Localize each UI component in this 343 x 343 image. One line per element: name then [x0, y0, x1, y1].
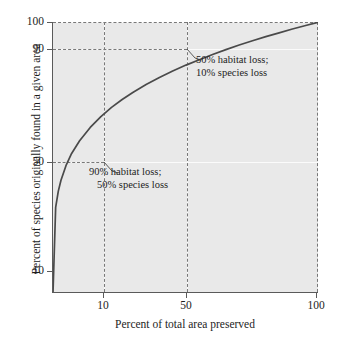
xtick-mark-50	[186, 293, 187, 298]
xtick-mark-10	[103, 293, 104, 298]
species-area-curve	[53, 22, 318, 293]
xtick-label-50: 50	[166, 299, 206, 311]
ytick-mark-90	[47, 49, 52, 50]
annotation-upper: 50% habitat loss; 10% species loss	[196, 54, 268, 80]
x-axis-title: Percent of total area preserved	[52, 318, 318, 330]
ytick-mark-100	[47, 22, 52, 23]
ytick-mark-50	[47, 162, 52, 163]
y-axis-title: Percent of species originally found in a…	[30, 19, 42, 299]
plot-area	[52, 22, 318, 293]
xtick-mark-100	[316, 293, 317, 298]
xtick-label-10: 10	[83, 299, 123, 311]
annotation-upper-line2: 10% species loss	[196, 67, 268, 80]
annotation-lower: 90% habitat loss; 50% species loss	[89, 166, 168, 192]
annotation-lower-line1: 90% habitat loss;	[89, 166, 168, 179]
xtick-label-100: 100	[296, 299, 336, 311]
annotation-lower-line2: 50% species loss	[89, 179, 168, 192]
ytick-mark-10	[47, 271, 52, 272]
annotation-upper-line1: 50% habitat loss;	[196, 54, 268, 67]
species-area-chart-figure: 10 50 100 100 90 50 10 Percent of total …	[0, 0, 343, 343]
